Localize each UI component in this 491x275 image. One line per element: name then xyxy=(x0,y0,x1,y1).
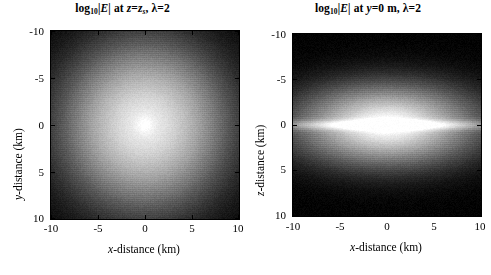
yaxis-label-right-var: z xyxy=(254,192,266,196)
xtick-right-2 xyxy=(387,212,388,216)
title-eq-left: = xyxy=(131,2,138,14)
heatmap-axes-left[interactable] xyxy=(50,30,240,220)
yaxis-label-left: y-distance (km) xyxy=(12,128,24,200)
xtick-label-right-0: -10 xyxy=(286,220,301,232)
ytick-right-right-1 xyxy=(477,79,481,80)
xtick-label-right-1: -5 xyxy=(335,220,344,232)
ytick-right-left-1 xyxy=(235,78,239,79)
xtick-top-right-3 xyxy=(434,34,435,38)
xtick-top-right-1 xyxy=(340,34,341,38)
yaxis-label-right-rest: -distance (km) xyxy=(254,125,266,192)
xtick-label-left-4: 10 xyxy=(233,222,244,234)
ytick-right-3 xyxy=(293,170,297,171)
xtick-label-right-3: 5 xyxy=(431,220,437,232)
xtick-right-1 xyxy=(340,212,341,216)
title-lambda-val-left: =2 xyxy=(157,2,170,14)
title-at-right: at xyxy=(351,2,367,14)
xaxis-label-left-rest: -distance (km) xyxy=(113,243,180,255)
ytick-right-right-2 xyxy=(477,125,481,126)
ytick-right-left-4 xyxy=(235,218,239,219)
ytick-right-0 xyxy=(293,34,297,35)
ytick-right-left-3 xyxy=(235,172,239,173)
xtick-left-2 xyxy=(145,215,146,219)
xaxis-label-right: x-distance (km) xyxy=(292,241,480,253)
ytick-right-left-0 xyxy=(235,31,239,32)
xtick-top-left-2 xyxy=(145,31,146,35)
xtick-top-left-1 xyxy=(98,31,99,35)
ytick-right-left-2 xyxy=(235,125,239,126)
plot-panel-left: log10|E| at z=zs, λ=2 xyxy=(0,0,245,275)
yaxis-label-left-var: y xyxy=(12,195,24,200)
heatmap-image-left xyxy=(51,31,239,219)
ytick-left-1 xyxy=(51,78,55,79)
ytick-label-left-1: -5 xyxy=(10,72,44,84)
figure-canvas: log10|E| at z=zs, λ=2 xyxy=(0,0,491,275)
title-eq-right: =0 m xyxy=(372,2,397,14)
xtick-label-right-4: 10 xyxy=(475,220,486,232)
title-at-left: at xyxy=(111,2,127,14)
ytick-right-right-4 xyxy=(477,215,481,216)
heatmap-image-right xyxy=(293,34,481,216)
ytick-right-4 xyxy=(293,215,297,216)
xtick-top-right-2 xyxy=(387,34,388,38)
ytick-right-right-0 xyxy=(477,34,481,35)
xtick-label-right-2: 0 xyxy=(384,220,390,232)
ytick-left-4 xyxy=(51,218,55,219)
ytick-left-2 xyxy=(51,125,55,126)
title-quantity-left: |E| xyxy=(98,2,111,14)
ytick-label-right-0: -10 xyxy=(252,28,286,40)
title-log-right: log xyxy=(315,2,330,14)
title-log-base-right: 10 xyxy=(330,7,338,16)
ytick-right-1 xyxy=(293,79,297,80)
ytick-right-right-3 xyxy=(477,170,481,171)
panel-right-title: log10|E| at y=0 m, λ=2 xyxy=(245,2,491,16)
yaxis-label-left-rest: -distance (km) xyxy=(12,128,24,195)
xaxis-label-right-rest: -distance (km) xyxy=(355,241,422,253)
xtick-right-3 xyxy=(434,212,435,216)
panel-left-title: log10|E| at z=zs, λ=2 xyxy=(0,2,245,16)
title-log-left: log xyxy=(75,2,90,14)
ytick-label-right-1: -5 xyxy=(252,73,286,85)
xtick-label-left-3: 5 xyxy=(189,222,195,234)
heatmap-axes-right[interactable] xyxy=(292,33,482,217)
xtick-label-left-0: -10 xyxy=(44,222,59,234)
title-quantity-right: |E| xyxy=(338,2,351,14)
yaxis-label-right: z-distance (km) xyxy=(254,125,266,196)
title-lambda-val-right: =2 xyxy=(409,2,422,14)
ytick-left-0 xyxy=(51,31,55,32)
title-log-base-left: 10 xyxy=(90,7,98,16)
xtick-left-3 xyxy=(192,215,193,219)
ytick-left-3 xyxy=(51,172,55,173)
xaxis-label-left: x-distance (km) xyxy=(50,243,238,255)
xtick-left-1 xyxy=(98,215,99,219)
ytick-label-left-4: 10 xyxy=(10,212,44,224)
ytick-right-2 xyxy=(293,125,297,126)
plot-panel-right: log10|E| at y=0 m, λ=2 xyxy=(245,0,491,275)
xtick-label-left-1: -5 xyxy=(93,222,102,234)
ytick-label-right-4: 10 xyxy=(252,209,286,221)
ytick-label-left-0: -10 xyxy=(10,25,44,37)
xtick-top-left-3 xyxy=(192,31,193,35)
xtick-label-left-2: 0 xyxy=(142,222,148,234)
